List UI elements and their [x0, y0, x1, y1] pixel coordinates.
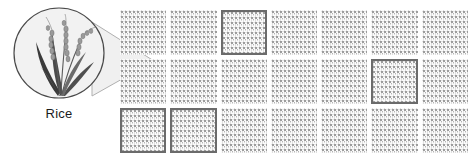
field-plot[interactable] — [321, 10, 367, 55]
field-plot[interactable] — [120, 59, 166, 104]
field-plot[interactable] — [221, 108, 267, 153]
field-plot[interactable] — [422, 59, 468, 104]
field-plot[interactable] — [271, 10, 317, 55]
field-plot[interactable] — [271, 59, 317, 104]
field-plot[interactable] — [422, 10, 468, 55]
field-plot-grid — [120, 10, 468, 153]
field-plot[interactable] — [170, 10, 216, 55]
field-plot[interactable] — [422, 108, 468, 153]
field-plot[interactable] — [321, 108, 367, 153]
field-plot-selected[interactable] — [170, 108, 216, 153]
field-plot[interactable] — [371, 10, 417, 55]
field-plot-selected[interactable] — [371, 59, 417, 104]
rice-field-sampling-diagram: Rice — [0, 0, 473, 160]
field-plot[interactable] — [170, 59, 216, 104]
specimen-label: Rice — [0, 106, 118, 121]
field-plot[interactable] — [321, 59, 367, 104]
field-plot-selected[interactable] — [221, 10, 267, 55]
field-plot-selected[interactable] — [120, 108, 166, 153]
field-plot[interactable] — [221, 59, 267, 104]
field-plot[interactable] — [120, 10, 166, 55]
field-plot[interactable] — [271, 108, 317, 153]
field-plot[interactable] — [371, 108, 417, 153]
